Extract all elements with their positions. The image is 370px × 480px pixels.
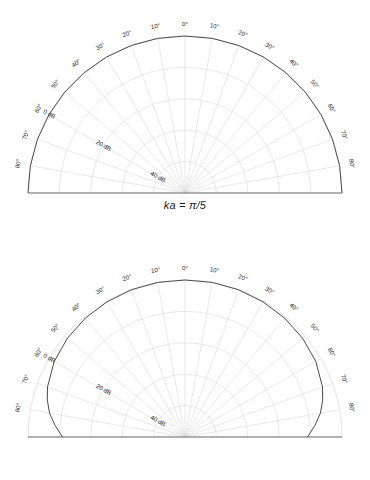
- angle-tick-label: 20°: [238, 272, 250, 282]
- figure-sheet: 80°70°60°50°40°30°20°10°0°10°20°30°40°50…: [0, 0, 370, 480]
- grid-spoke: [84, 73, 185, 193]
- radial-tick-label: 0 dB: [42, 108, 57, 120]
- grid-spoke: [185, 336, 305, 437]
- angle-tick-label: 50°: [49, 322, 61, 334]
- angle-tick-label: 40°: [288, 57, 300, 69]
- angle-tick-label: 70°: [20, 373, 30, 385]
- angle-tick-label: 50°: [49, 78, 61, 90]
- grid-spoke: [185, 73, 286, 193]
- angle-tick-label: 20°: [121, 272, 133, 282]
- angle-tick-label: 80°: [13, 402, 22, 413]
- grid-spoke: [185, 317, 286, 437]
- angle-tick-label: 10°: [150, 21, 161, 30]
- radial-tick-label: 40 dB: [149, 413, 167, 427]
- angle-tick-label: 50°: [309, 322, 321, 334]
- polar-plot-panel-1: 80°70°60°50°40°30°20°10°0°10°20°30°40°50…: [0, 0, 370, 240]
- angle-tick-label: 60°: [33, 346, 44, 358]
- angle-tick-label: 10°: [209, 265, 220, 274]
- radial-tick-label: 40 dB: [149, 169, 167, 183]
- angle-tick-label: 0°: [182, 20, 188, 27]
- angle-tick-label: 70°: [340, 373, 350, 385]
- grid-spoke: [65, 336, 185, 437]
- angle-tick-label: 70°: [20, 129, 30, 141]
- grid-spoke: [84, 317, 185, 437]
- angle-tick-label: 80°: [348, 158, 357, 169]
- angle-tick-label: 30°: [94, 284, 106, 295]
- polar-chart-2: 80°70°60°50°40°30°20°10°0°10°20°30°40°50…: [0, 240, 370, 480]
- angle-tick-label: 30°: [264, 41, 276, 52]
- angle-tick-label: 80°: [348, 402, 357, 413]
- angle-tick-label: 40°: [70, 57, 82, 69]
- angle-tick-label: 40°: [70, 301, 82, 313]
- radial-tick-label: 20 dB: [95, 138, 113, 152]
- panel-1-caption: ka = π/5: [0, 199, 370, 211]
- angle-tick-label: 20°: [121, 28, 133, 38]
- angle-tick-label: 40°: [288, 301, 300, 313]
- polar-plot-panel-2: 80°70°60°50°40°30°20°10°0°10°20°30°40°50…: [0, 240, 370, 480]
- angle-tick-label: 20°: [238, 28, 250, 38]
- angle-tick-label: 30°: [264, 285, 276, 296]
- angle-tick-label: 60°: [327, 102, 338, 114]
- angle-tick-label: 60°: [327, 346, 338, 358]
- angle-tick-label: 60°: [33, 102, 44, 114]
- angle-tick-label: 0°: [182, 264, 188, 271]
- angle-tick-label: 50°: [309, 78, 321, 90]
- angle-tick-label: 10°: [150, 265, 161, 274]
- grid-spoke: [185, 92, 305, 193]
- angle-tick-label: 80°: [13, 158, 22, 169]
- radial-tick-label: 20 dB: [95, 382, 113, 396]
- angle-tick-label: 70°: [340, 129, 350, 141]
- grid-spoke: [65, 92, 185, 193]
- angle-tick-label: 30°: [94, 40, 106, 51]
- angle-tick-label: 10°: [209, 21, 220, 30]
